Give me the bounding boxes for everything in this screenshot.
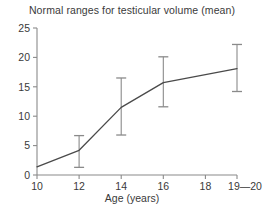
y-axis-tick-label: 15: [18, 81, 30, 93]
data-line-series: [37, 69, 237, 167]
y-axis-tick-labels: 0510152025: [18, 22, 30, 181]
y-axis-tick-label: 25: [18, 22, 30, 34]
error-bars-group: [74, 44, 242, 167]
y-axis-tick-label: 20: [18, 51, 30, 63]
error-bar: [116, 78, 126, 135]
y-axis-tick-label: 10: [18, 110, 30, 122]
x-axis-label: Age (years): [0, 192, 264, 204]
x-axis-tick-label: 14: [115, 180, 127, 192]
x-axis-tick-label: 18: [200, 180, 212, 192]
x-axis-tick-label: 19—20: [228, 180, 262, 192]
y-axis-tick-label: 5: [24, 139, 30, 151]
x-axis-tick-label: 12: [73, 180, 85, 192]
x-axis-tick-labels: 101214161819—20: [31, 180, 262, 192]
mean-line: [37, 69, 237, 167]
y-axis-tick-label: 0: [24, 169, 30, 181]
chart-plot-area: 0510152025 101214161819—20: [0, 0, 264, 216]
chart-figure: Normal ranges for testicular volume (mea…: [0, 0, 264, 216]
x-axis-tick-label: 16: [157, 180, 169, 192]
axes-group: [37, 28, 237, 175]
x-axis-tick-label: 10: [31, 180, 43, 192]
